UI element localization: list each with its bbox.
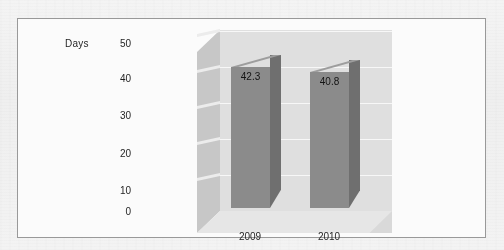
bar-2009[interactable]: 42.3 (231, 55, 270, 208)
bar-chart-figure: Days 50 40 30 20 10 0 (17, 18, 486, 238)
plot-left-wall (197, 30, 220, 233)
gridline-50 (219, 31, 392, 32)
bar-2010-side-face (349, 60, 360, 208)
y-axis-tick-40: 40 (101, 73, 131, 84)
y-axis-tick-30: 30 (101, 110, 131, 121)
bar-2009-side-face (270, 55, 281, 208)
bar-2010-value-label: 40.8 (310, 76, 349, 87)
screenshot-canvas: Days 50 40 30 20 10 0 (0, 0, 504, 250)
x-axis-category-2009: 2009 (220, 231, 280, 242)
y-axis-title: Days (65, 38, 89, 49)
x-axis-category-2010: 2010 (299, 231, 359, 242)
bar-2010[interactable]: 40.8 (310, 60, 349, 208)
y-axis-tick-50: 50 (101, 38, 131, 49)
bar-2009-value-label: 42.3 (231, 71, 270, 82)
y-axis-tick-20: 20 (101, 148, 131, 159)
bar-2009-front-face (231, 67, 270, 208)
bar-2010-front-face (310, 72, 349, 208)
plot-area-3d: 42.3 40.8 (197, 30, 392, 230)
y-axis-tick-0: 0 (101, 206, 131, 217)
y-axis-tick-10: 10 (101, 185, 131, 196)
